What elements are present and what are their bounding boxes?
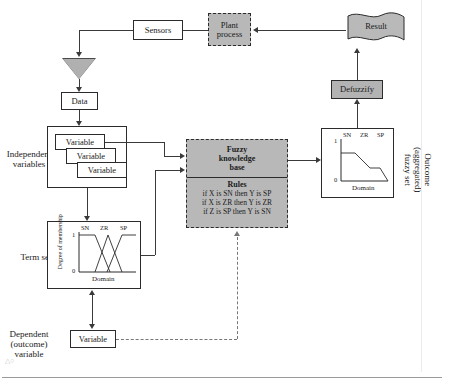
outcome-label-line-3: fuzzy set — [402, 134, 412, 206]
page-rule — [2, 377, 442, 378]
diagram-canvas: Sensors Plant process Result Data Indepe… — [0, 0, 450, 390]
dashed-link-up-to-rules — [237, 237, 238, 339]
label-outcome-fuzzy-set: Outcome (aggregated) fuzzy set — [402, 134, 432, 206]
knowledge-base-rules: Rules if X is SN then Y is SP if X is ZR… — [187, 178, 287, 229]
link-defuzzify-to-result — [357, 53, 358, 80]
outcome-ytick-1: 1 — [334, 137, 337, 144]
knowledge-base-title: Fuzzy knowledge base — [187, 140, 287, 178]
page-artifact: △○ — [5, 357, 14, 365]
link-termset-up — [155, 170, 156, 255]
dependent-variable-label: Variable — [79, 335, 107, 344]
term-set-legend-sn: SN — [81, 224, 89, 231]
link-variable-down — [164, 142, 165, 156]
link-sensors-to-plant — [183, 30, 208, 31]
chart-outcome-aggregated: 1 0 SN ZR SP Domain — [321, 128, 394, 198]
link-outcome-to-defuzzify — [357, 104, 358, 128]
outcome-xlabel: Domain — [352, 184, 375, 192]
arrow-to-funnel — [76, 52, 82, 57]
outcome-ytick-0: 0 — [334, 176, 337, 183]
outcome-legend-sp: SP — [377, 131, 384, 138]
node-plant-process: Plant process — [208, 13, 251, 46]
outcome-legend-zr: ZR — [360, 131, 368, 138]
outcome-legend-sn: SN — [343, 131, 351, 138]
link-variable-to-kb — [164, 156, 181, 157]
sensors-label: Sensors — [145, 26, 171, 35]
arrow-to-dependent-variable — [89, 324, 95, 329]
link-termset-to-kb — [155, 170, 181, 171]
link-sensors-down — [79, 30, 80, 53]
outcome-label-line-1: Outcome — [422, 134, 432, 206]
chart-term-set: 1 0 SN ZR SP Domain Degree of membership — [47, 221, 141, 289]
node-result: Result — [345, 9, 407, 49]
rules-heading: Rules — [227, 180, 246, 189]
variable-2-label: Variable — [77, 152, 105, 161]
term-set-ylabel: Degree of membership — [57, 225, 63, 269]
funnel-shape — [63, 59, 95, 79]
kb-title-line-3: base — [229, 163, 244, 172]
variable-1-label: Variable — [66, 138, 94, 147]
rule-item-3: if Z is SP then Y is SN — [203, 208, 271, 217]
arrow-to-result — [354, 48, 360, 53]
label-dependent-variable: Dependent (outcome) variable — [0, 330, 66, 360]
term-set-xlabel: Domain — [92, 275, 115, 283]
node-data: Data — [61, 92, 98, 110]
node-variable-3: Variable — [77, 162, 127, 178]
term-set-ytick-0: 0 — [72, 267, 75, 274]
defuzzify-label: Defuzzify — [340, 85, 374, 94]
result-label: Result — [345, 21, 407, 31]
variable-3-label: Variable — [88, 166, 116, 175]
page-scan-line — [421, 0, 422, 372]
node-defuzzify: Defuzzify — [331, 80, 383, 99]
link-termset-dependent — [92, 295, 93, 325]
arrow-to-term-set-from-dependent — [89, 290, 95, 295]
term-set-ytick-1: 1 — [72, 231, 75, 238]
arrow-to-rules — [234, 231, 240, 236]
node-dependent-variable: Variable — [70, 330, 116, 348]
link-independent-to-termset — [87, 188, 88, 217]
term-set-legend-zr: ZR — [100, 224, 108, 231]
link-kb-to-outcome — [288, 160, 317, 161]
arrow-to-defuzzify — [354, 99, 360, 104]
data-label: Data — [71, 97, 87, 106]
term-set-legend-sp: SP — [120, 224, 127, 231]
plant-process-label-2: process — [217, 30, 243, 39]
arrow-to-knowledge-base-lower — [180, 167, 185, 173]
arrow-to-knowledge-base-upper — [180, 153, 185, 159]
dashed-link-dependent-right — [116, 339, 237, 340]
node-sensors: Sensors — [133, 20, 183, 40]
kb-title-line-2: knowledge — [219, 154, 255, 163]
link-result-to-plant — [258, 30, 346, 31]
link-termset-right — [141, 255, 155, 256]
link-sensors-left — [79, 30, 133, 31]
link-variable-right — [105, 142, 164, 143]
arrow-to-plant-process — [253, 27, 258, 33]
node-fuzzy-knowledge-base: Fuzzy knowledge base Rules if X is SN th… — [186, 139, 288, 228]
kb-title-line-1: Fuzzy — [227, 145, 247, 154]
